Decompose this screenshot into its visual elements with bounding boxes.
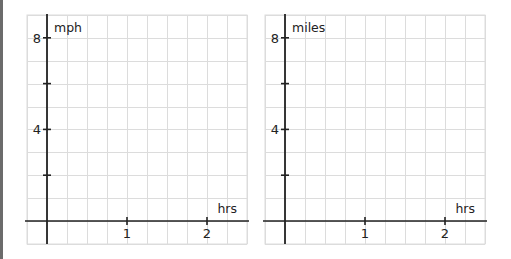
x-tick-label: 2 (203, 226, 211, 241)
x-axis-label: hrs (217, 201, 237, 216)
y-tick-label: 4 (271, 122, 279, 137)
y-axis-label: miles (292, 20, 325, 35)
chart-distance: 1248mileshrs (263, 14, 487, 245)
y-tick-label: 8 (271, 31, 279, 46)
x-axis-label: hrs (455, 201, 475, 216)
y-tick-label: 8 (33, 31, 41, 46)
x-tick-label: 1 (123, 226, 131, 241)
x-tick-label: 2 (441, 226, 449, 241)
x-tick-label: 1 (361, 226, 369, 241)
y-tick-label: 4 (33, 122, 41, 137)
charts-canvas: 1248mphhrs 1248mileshrs (0, 0, 511, 259)
chart-speed: 1248mphhrs (25, 14, 249, 245)
y-axis-label: mph (54, 20, 82, 35)
